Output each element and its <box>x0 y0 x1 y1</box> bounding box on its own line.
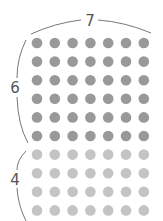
dark-dot <box>121 38 132 49</box>
dark-dot <box>103 56 114 67</box>
dark-dot <box>85 38 96 49</box>
dark-dot <box>85 131 96 142</box>
light-dot <box>67 149 78 160</box>
dark-dot <box>139 94 150 105</box>
light-dot <box>50 187 61 198</box>
light-dot <box>85 205 96 216</box>
dark-dot <box>139 75 150 86</box>
dark-dot <box>50 56 61 67</box>
dark-dot <box>67 56 78 67</box>
dark-dot <box>121 112 132 123</box>
dark-dot <box>85 94 96 105</box>
dot-array-diagram: 7 6 4 <box>0 0 163 221</box>
dark-dot <box>139 112 150 123</box>
light-dot <box>139 149 150 160</box>
light-dot <box>139 187 150 198</box>
left-brace-top <box>17 40 26 78</box>
dark-dot <box>139 38 150 49</box>
dark-dot <box>121 56 132 67</box>
dark-dot <box>103 75 114 86</box>
light-dot <box>32 187 43 198</box>
light-dot <box>85 168 96 179</box>
light-dot <box>139 205 150 216</box>
dark-dot <box>121 131 132 142</box>
dark-dot <box>67 112 78 123</box>
light-dot <box>85 187 96 198</box>
light-dot <box>103 205 114 216</box>
dark-dot <box>67 94 78 105</box>
top-brace <box>31 20 81 34</box>
dark-dot <box>85 75 96 86</box>
light-dot <box>32 168 43 179</box>
dark-dot <box>103 38 114 49</box>
light-dot <box>121 149 132 160</box>
light-dot <box>50 149 61 160</box>
light-dot <box>85 149 96 160</box>
left-brace-top-lower <box>17 97 28 143</box>
dark-dot <box>50 131 61 142</box>
light-dot <box>103 149 114 160</box>
dark-dot <box>50 38 61 49</box>
dark-dot <box>50 112 61 123</box>
light-dot <box>67 205 78 216</box>
light-dot <box>50 205 61 216</box>
dark-dot <box>67 38 78 49</box>
top-label: 7 <box>85 12 95 30</box>
dark-dot <box>139 56 150 67</box>
light-dot <box>103 187 114 198</box>
light-dot <box>121 187 132 198</box>
left-brace-bottom-lower <box>17 188 26 221</box>
dot-grid <box>32 38 149 216</box>
dark-dot <box>32 56 43 67</box>
light-dot <box>67 168 78 179</box>
dark-dot <box>32 112 43 123</box>
left-top-label: 6 <box>10 79 20 97</box>
light-dot <box>121 205 132 216</box>
light-dot <box>121 168 132 179</box>
left-bottom-label: 4 <box>10 171 20 189</box>
dark-dot <box>50 75 61 86</box>
dark-dot <box>121 75 132 86</box>
dark-dot <box>103 131 114 142</box>
dark-dot <box>67 131 78 142</box>
top-brace-right <box>98 20 151 33</box>
dark-dot <box>103 94 114 105</box>
light-dot <box>139 168 150 179</box>
light-dot <box>103 168 114 179</box>
dark-dot <box>103 112 114 123</box>
dark-dot <box>139 131 150 142</box>
left-brace-bottom <box>17 151 26 170</box>
dark-dot <box>50 94 61 105</box>
light-dot <box>32 205 43 216</box>
dark-dot <box>32 38 43 49</box>
light-dot <box>32 149 43 160</box>
dark-dot <box>32 131 43 142</box>
light-dot <box>50 168 61 179</box>
dark-dot <box>32 75 43 86</box>
dark-dot <box>67 75 78 86</box>
dark-dot <box>121 94 132 105</box>
dark-dot <box>85 56 96 67</box>
dark-dot <box>32 94 43 105</box>
light-dot <box>67 187 78 198</box>
dark-dot <box>85 112 96 123</box>
